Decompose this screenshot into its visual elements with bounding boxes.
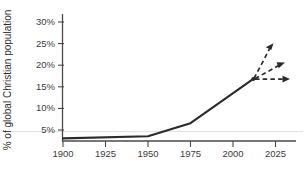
projection-middle-arrowhead <box>277 62 285 68</box>
y-axis-title: % of global Christian population <box>2 10 13 151</box>
y-tick-label-15: 15% <box>36 81 56 92</box>
y-tick-label-25: 25% <box>36 38 56 49</box>
series-line-observed <box>63 79 253 138</box>
projection-high-arrowhead <box>266 43 274 50</box>
y-tick-label-5: 5% <box>41 124 55 135</box>
line-chart: 30% 25% 20% 15% 10% 5% 1900 1925 1950 19… <box>0 0 305 171</box>
projection-middle-line <box>255 66 279 79</box>
y-tick-label-10: 10% <box>36 102 56 113</box>
x-tick-label-1925: 1925 <box>95 148 116 159</box>
y-tick-label-30: 30% <box>36 16 56 27</box>
projection-flat <box>255 76 290 83</box>
x-tick-label-2000: 2000 <box>222 148 243 159</box>
chart-container: 30% 25% 20% 15% 10% 5% 1900 1925 1950 19… <box>0 0 305 171</box>
x-tick-label-2025: 2025 <box>265 148 286 159</box>
x-tick-label-1975: 1975 <box>180 148 201 159</box>
projection-flat-arrowhead <box>283 76 291 83</box>
x-tick-label-1950: 1950 <box>137 148 158 159</box>
x-axis-ticks <box>63 141 276 147</box>
series-endpoint-marker <box>251 77 255 81</box>
x-tick-label-1900: 1900 <box>52 148 73 159</box>
projection-middle <box>255 62 285 78</box>
y-tick-label-20: 20% <box>36 59 56 70</box>
